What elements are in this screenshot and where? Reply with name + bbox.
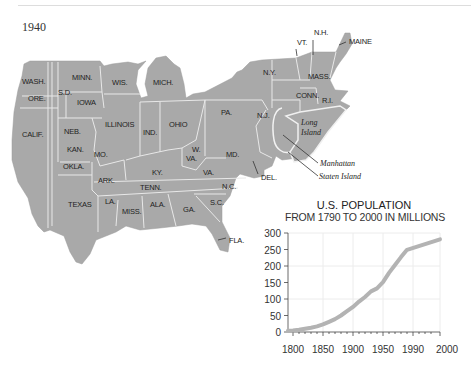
svg-text:2000: 2000 <box>436 344 459 355</box>
state-label: GA. <box>183 205 195 214</box>
state-label: CALIF. <box>22 130 43 139</box>
state-label: OHIO <box>169 120 188 129</box>
svg-text:1950: 1950 <box>372 344 395 355</box>
state-label: ALA. <box>150 200 166 209</box>
state-label: MICH. <box>153 78 173 87</box>
state-label: MISS. <box>122 207 142 216</box>
state-label: MASS. <box>308 72 330 81</box>
state-label: KAN. <box>67 145 84 154</box>
svg-text:300: 300 <box>264 228 281 239</box>
state-label: MO. <box>94 150 108 159</box>
state-label: IOWA <box>77 98 96 107</box>
svg-text:1900: 1900 <box>342 344 365 355</box>
y-tick-labels: 300 250 200 150 100 50 0 <box>264 228 281 338</box>
long-island-label: Island <box>300 128 322 137</box>
state-label: VA. <box>186 154 197 163</box>
svg-text:0: 0 <box>275 327 281 338</box>
state-label: MINN. <box>72 73 92 82</box>
chart-subtitle: FROM 1790 TO 2000 IN MILLIONS <box>255 211 471 223</box>
state-label: ILLINOIS <box>105 120 134 129</box>
population-line <box>288 239 440 330</box>
state-label: S.D. <box>58 88 72 97</box>
svg-text:250: 250 <box>264 245 281 256</box>
state-label: MAINE <box>349 37 372 46</box>
long-island-label: Long <box>300 118 317 127</box>
chart-title: U.S. POPULATION <box>264 199 464 211</box>
state-label: S.C. <box>210 198 224 207</box>
state-label: W. <box>192 145 200 154</box>
state-label: PA. <box>221 108 232 117</box>
state-label: WIS. <box>112 78 128 87</box>
state-label: R.I. <box>322 96 333 105</box>
svg-text:1990: 1990 <box>402 344 425 355</box>
state-label: VT. <box>297 38 307 47</box>
state-label: VA. <box>203 168 214 177</box>
state-label: IND. <box>143 128 157 137</box>
state-label: MD. <box>226 150 239 159</box>
state-label: OKLA. <box>63 162 84 171</box>
state-label: LA. <box>105 197 116 206</box>
state-label: N.Y. <box>263 68 276 77</box>
svg-text:1850: 1850 <box>312 344 335 355</box>
state-label: KY. <box>152 168 163 177</box>
state-label: TENN. <box>140 183 162 192</box>
state-label: ORE. <box>28 94 46 103</box>
state-label: FLA. <box>229 236 244 245</box>
svg-text:50: 50 <box>270 311 282 322</box>
svg-text:1800: 1800 <box>282 344 305 355</box>
us-map: WASH. ORE. CALIF. S.D. MINN. WIS. MICH. … <box>0 0 471 376</box>
population-chart: 300 250 200 150 100 50 0 1800 1850 1900 … <box>264 228 458 355</box>
state-label: WASH. <box>22 77 45 86</box>
state-label: N.C. <box>222 182 236 191</box>
state-label: ARK. <box>98 176 115 185</box>
svg-text:100: 100 <box>264 294 281 305</box>
svg-text:200: 200 <box>264 261 281 272</box>
state-label: CONN. <box>296 91 319 100</box>
state-label: NEB. <box>64 127 81 136</box>
state-label: N.J. <box>257 111 270 120</box>
manhattan-label: Manhattan <box>319 159 355 168</box>
state-label: N.H. <box>314 28 328 37</box>
state-label: DEL. <box>261 173 277 182</box>
staten-island-label: Staten Island <box>319 172 362 181</box>
svg-text:150: 150 <box>264 278 281 289</box>
x-tick-labels: 1800 1850 1900 1950 1990 2000 <box>282 344 459 355</box>
state-label: TEXAS <box>68 200 92 209</box>
